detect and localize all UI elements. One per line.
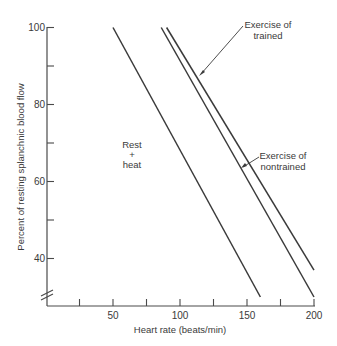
x-tick-label: 200 bbox=[306, 310, 323, 321]
series-line bbox=[167, 28, 314, 271]
y-ticks: 100806040 bbox=[28, 22, 54, 264]
series-annotation: nontrained bbox=[261, 161, 306, 172]
series-annotation: heat bbox=[123, 159, 142, 170]
y-tick-label: 100 bbox=[28, 22, 45, 33]
chart: 100806040 50100150200 Rest+heatExercise … bbox=[0, 0, 337, 346]
x-ticks: 50100150200 bbox=[80, 299, 323, 321]
x-tick-label: 150 bbox=[239, 310, 256, 321]
series-annotation: Exercise of bbox=[245, 19, 292, 30]
y-tick-label: 40 bbox=[34, 253, 46, 264]
x-axis-title: Heart rate (beats/min) bbox=[134, 324, 226, 335]
x-tick-label: 50 bbox=[107, 310, 119, 321]
y-tick-label: 80 bbox=[34, 99, 46, 110]
series-annotation: Exercise of bbox=[260, 150, 307, 161]
series-annotation: trained bbox=[253, 30, 282, 41]
leader-line bbox=[201, 26, 243, 74]
arrow-icon bbox=[241, 163, 247, 168]
x-tick-label: 100 bbox=[172, 310, 189, 321]
y-axis-title: Percent of resting splanchnic blood flow bbox=[15, 83, 26, 251]
y-tick-label: 60 bbox=[34, 176, 46, 187]
